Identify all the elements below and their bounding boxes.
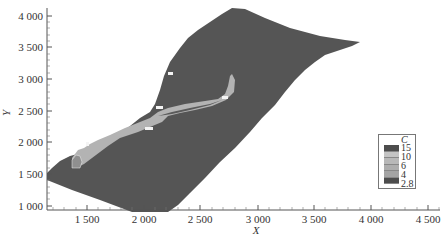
y-tick-label: 2 000 [18, 136, 43, 148]
y-tick-label: 3 000 [18, 73, 43, 85]
y-tick-label: 1 000 [18, 200, 43, 212]
y-tick-label: 1 500 [18, 168, 43, 180]
x-tick-label: 4 000 [359, 213, 384, 225]
legend-label: 2.8 [401, 179, 414, 188]
x-axis-title: X [252, 224, 261, 236]
y-tick-label: 4 000 [18, 10, 43, 22]
x-tick-label: 3 500 [302, 213, 327, 225]
legend-swatch [384, 178, 399, 185]
y-tick-label: 3 500 [18, 41, 43, 53]
x-tick-label: 1 500 [75, 213, 100, 225]
legend-labels: 15 10 6 4 2.8 [401, 143, 414, 188]
legend: C 15 10 6 4 2.8 [378, 134, 416, 189]
y-axis-title: Y [0, 108, 12, 116]
y-tick-label: 2 500 [18, 105, 43, 117]
x-tick-label: 2 500 [188, 213, 213, 225]
domain-region [47, 8, 360, 212]
contour-chart: 4 000 3 500 3 000 2 500 2 000 1 500 1 00… [0, 0, 443, 242]
legend-swatches [384, 145, 399, 184]
x-tick-label: 4 500 [416, 213, 441, 225]
x-tick-label: 2 000 [132, 213, 157, 225]
